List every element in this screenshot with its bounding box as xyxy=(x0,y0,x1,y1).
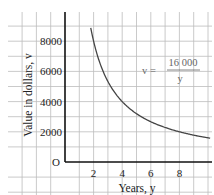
y-tick-label: 4000 xyxy=(40,96,63,108)
y-axis-label: Value in dollars, v xyxy=(22,53,35,137)
equation-denominator: y xyxy=(177,73,183,84)
equation-numerator: 16 000 xyxy=(169,57,198,68)
chart: 24682000400060008000 O Years, y Value in… xyxy=(0,0,214,195)
axes xyxy=(65,12,212,162)
x-tick-label: 2 xyxy=(91,167,97,179)
x-tick-label: 6 xyxy=(148,167,154,179)
tick-labels: 24682000400060008000 xyxy=(40,35,183,179)
y-tick-label: 2000 xyxy=(40,126,63,138)
origin-label: O xyxy=(52,156,60,168)
x-tick-label: 4 xyxy=(119,167,125,179)
x-axis-label: Years, y xyxy=(118,182,155,195)
x-tick-label: 8 xyxy=(177,167,183,179)
y-tick-label: 6000 xyxy=(40,65,63,77)
y-tick-label: 8000 xyxy=(40,35,63,47)
equation-lhs: v = xyxy=(142,65,156,76)
